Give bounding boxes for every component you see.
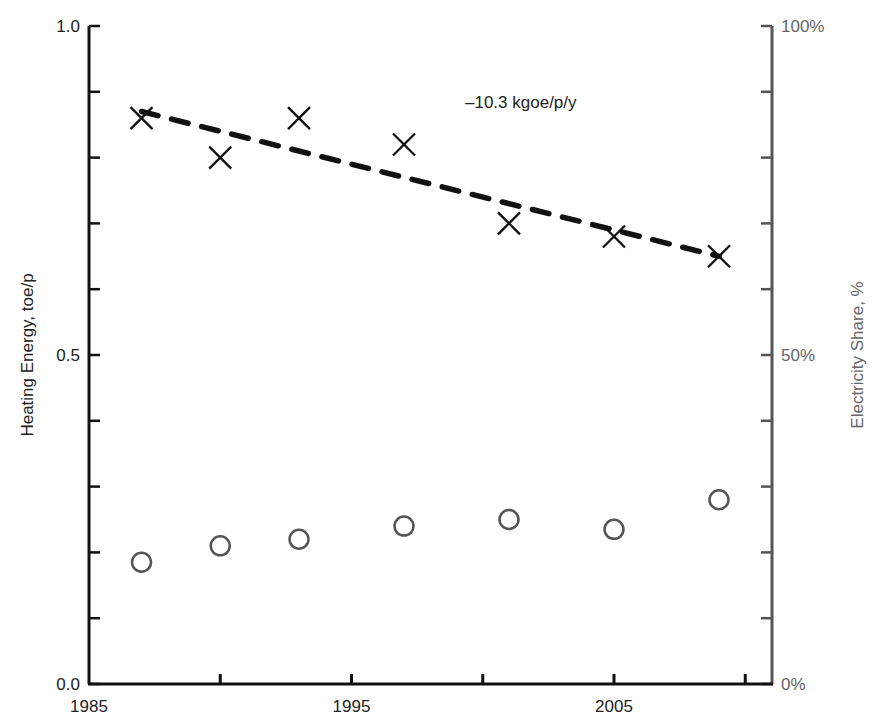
circle-marker (290, 530, 309, 549)
circle-marker (211, 536, 230, 555)
circle-marker (605, 520, 624, 539)
left-y-axis: 0.00.51.0 (56, 17, 100, 694)
x-axis-tick-label: 1985 (70, 697, 108, 716)
cross-marker (393, 133, 415, 155)
x-axis-tick-label: 2005 (595, 697, 633, 716)
cross-marker (498, 212, 520, 234)
trend-annotation: –10.3 kgoe/p/y (465, 93, 577, 112)
right-axis-tick-label: 100% (781, 17, 824, 36)
circle-marker (395, 517, 414, 536)
right-axis-tick-label: 50% (781, 346, 815, 365)
left-axis-tick-label: 1.0 (56, 17, 80, 36)
trend-line (142, 112, 720, 257)
right-axis-tick-label: 0% (781, 675, 806, 694)
circle-marker (710, 490, 729, 509)
right-y-axis: 0%50%100% (761, 17, 824, 694)
plot-area (131, 107, 731, 572)
left-axis-tick-label: 0.0 (56, 675, 80, 694)
circle-marker (500, 510, 519, 529)
left-axis-title: Heating Energy, toe/p (18, 273, 37, 436)
left-axis-tick-label: 0.5 (56, 346, 80, 365)
chart: 0.00.51.0 0%50%100% 198519952005 Heating… (0, 0, 879, 724)
right-axis-title: Electricity Share, % (848, 281, 867, 428)
circle-marker (132, 553, 151, 572)
cross-marker (209, 147, 231, 169)
x-axis: 198519952005 (70, 674, 773, 716)
cross-marker (288, 107, 310, 129)
x-axis-tick-label: 1995 (333, 697, 371, 716)
